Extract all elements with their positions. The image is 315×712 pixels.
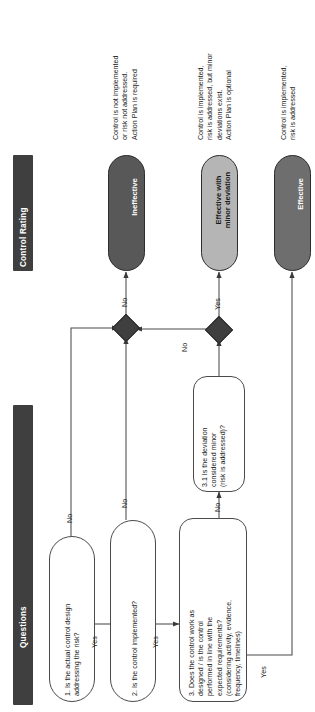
edge-label-junction1-no: No xyxy=(120,298,129,307)
edge-label-q3-1-yes: Yes xyxy=(259,666,268,678)
edge-label-q1-yes: Yes xyxy=(90,636,99,648)
edge-label-junction2-no: No xyxy=(180,343,189,352)
question-box-q2-label: 2. Is the control implemented? xyxy=(131,526,140,696)
edge-label-junction2-yes: Yes xyxy=(213,298,222,310)
band-questions xyxy=(13,405,33,705)
connector-wires xyxy=(0,0,315,712)
band-control-rating-label: Control Rating xyxy=(19,207,28,267)
question-box-q1-label: 1. Is the actual control design addressi… xyxy=(64,542,82,696)
rating-note-ineffective: Control is not implemented or risk not a… xyxy=(112,8,140,140)
band-questions-label: Questions xyxy=(19,606,28,648)
rating-note-effective: Control is implemented, risk is addresse… xyxy=(280,8,299,140)
edge-label-q1-no: No xyxy=(65,514,74,523)
question-box-q3-label: 3. Does the control work as designed / i… xyxy=(188,524,243,696)
flowchart-canvas: Control Rating Questions Ineffective Con… xyxy=(0,0,315,712)
edge-label-q3-no: No xyxy=(213,503,222,512)
merge-junction-deviation xyxy=(205,316,233,344)
rating-pill-effective-minor-deviation-label: Effective with minor deviation xyxy=(214,145,233,255)
rating-note-effective-minor-deviation: Control is implemented, risk is addresse… xyxy=(197,8,234,140)
question-box-q3-1-label: 3.1 Is the deviation considered minor (r… xyxy=(201,381,229,487)
rating-pill-ineffective-label: Ineffective xyxy=(130,149,139,245)
edge-label-q2-yes: Yes xyxy=(151,636,160,648)
rating-pill-effective-label: Effective xyxy=(296,148,305,240)
edge-label-q2-no: No xyxy=(120,499,129,508)
merge-junction-ineffective xyxy=(112,314,140,342)
